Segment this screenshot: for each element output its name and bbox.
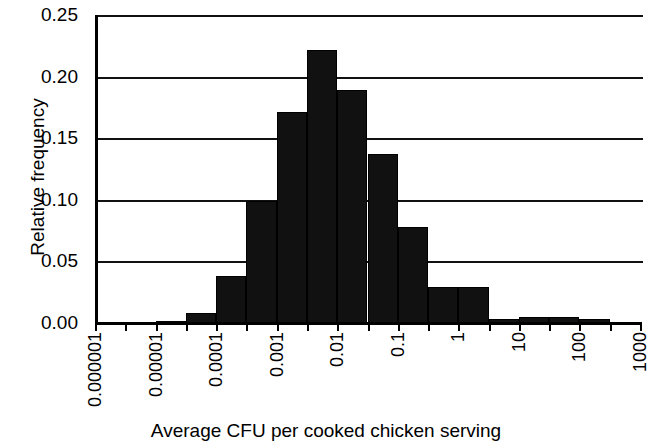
histogram-bar xyxy=(277,112,307,323)
x-axis-tick-labels: 0.0000010.000010.00010.0010.010.11101001… xyxy=(95,332,641,418)
x-tick xyxy=(156,322,158,331)
x-tick-label-text: 0.001 xyxy=(268,332,286,377)
x-tick xyxy=(519,322,521,331)
x-tick-label-text: 10 xyxy=(510,332,528,352)
bar-series xyxy=(95,15,640,323)
x-tick xyxy=(428,322,430,331)
x-axis-ticks xyxy=(95,322,641,332)
x-tick xyxy=(216,322,218,331)
x-tick xyxy=(398,322,400,331)
histogram-figure: Relative frequency 0.250.200.150.100.050… xyxy=(0,0,652,442)
x-tick-label-text: 100 xyxy=(570,332,588,362)
x-tick xyxy=(579,322,581,331)
x-axis-title: Average CFU per cooked chicken serving xyxy=(0,420,652,442)
x-tick-label-text: 0.000001 xyxy=(86,332,104,407)
y-tick-label: 0.00 xyxy=(14,313,78,332)
x-tick xyxy=(458,322,460,331)
x-tick-label-text: 0.0001 xyxy=(207,332,225,387)
x-tick xyxy=(246,322,248,331)
histogram-bar xyxy=(458,287,488,323)
x-tick-label-text: 0.01 xyxy=(328,332,346,367)
x-tick xyxy=(489,322,491,331)
x-tick xyxy=(125,322,127,331)
y-tick-label: 0.10 xyxy=(14,190,78,209)
histogram-bar xyxy=(428,287,458,323)
y-tick-label: 0.05 xyxy=(14,251,78,270)
histogram-bar xyxy=(246,201,276,323)
x-tick xyxy=(640,322,642,331)
x-tick-label-text: 0.1 xyxy=(389,332,407,357)
x-tick-label-text: 1000 xyxy=(631,332,649,372)
x-tick xyxy=(610,322,612,331)
histogram-bar xyxy=(398,227,428,323)
histogram-bar xyxy=(368,154,398,323)
y-axis-tick-labels: 0.250.200.150.100.050.00 xyxy=(14,0,78,442)
x-tick xyxy=(186,322,188,331)
histogram-bar xyxy=(216,276,246,323)
x-tick-label-text: 1 xyxy=(449,332,467,342)
x-tick-label-text: 0.00001 xyxy=(147,332,165,397)
x-tick xyxy=(307,322,309,331)
y-tick-label: 0.15 xyxy=(14,128,78,147)
x-tick xyxy=(368,322,370,331)
x-tick xyxy=(277,322,279,331)
x-tick xyxy=(95,322,97,331)
x-tick xyxy=(337,322,339,331)
y-tick-label: 0.25 xyxy=(14,5,78,24)
x-tick xyxy=(549,322,551,331)
histogram-bar xyxy=(337,90,367,323)
histogram-bar xyxy=(307,50,337,324)
y-tick-label: 0.20 xyxy=(14,67,78,86)
